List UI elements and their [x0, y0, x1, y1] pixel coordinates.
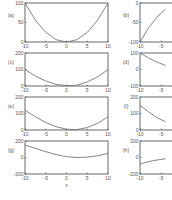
x-tick-label: 0	[65, 43, 68, 49]
y-tick-label: 0	[21, 39, 24, 45]
y-tick-label: 200	[15, 50, 24, 56]
y-tick-label: 200	[130, 94, 139, 100]
y-tick-label: 100	[130, 50, 139, 56]
axes-box	[140, 3, 172, 42]
y-tick-label: 0	[136, 127, 139, 133]
x-axis-label: x	[65, 182, 68, 188]
panel-g: -10-50510-2000200(g)x	[8, 138, 111, 188]
panel-e: -10-505100100200(e)	[8, 94, 111, 137]
x-tick-label: -5	[44, 175, 49, 181]
y-tick-label: 0	[21, 127, 24, 133]
x-tick-label: -5	[159, 87, 164, 93]
axes-box	[140, 97, 172, 130]
panel-f: -10-50100200(f)	[124, 94, 172, 137]
x-tick-label: 5	[86, 43, 89, 49]
x-tick-label: 5	[86, 87, 89, 93]
x-tick-label: 0	[65, 175, 68, 181]
y-tick-label: -50	[131, 19, 138, 25]
y-tick-label: -100	[128, 39, 138, 45]
x-tick-label: 10	[105, 87, 111, 93]
y-tick-label: 200	[130, 138, 139, 144]
panel-label: (b)	[123, 12, 129, 18]
x-tick-label: 10	[105, 131, 111, 137]
y-tick-label: 0	[21, 83, 24, 89]
y-tick-label: 0	[136, 154, 139, 160]
panel-label: (h)	[123, 147, 129, 153]
y-tick-label: 100	[15, 110, 24, 116]
axes-box	[25, 53, 108, 86]
y-tick-label: 200	[15, 138, 24, 144]
x-tick-label: 5	[86, 131, 89, 137]
panel-label: (f)	[124, 103, 129, 109]
x-tick-label: -5	[44, 87, 49, 93]
axes-box	[140, 53, 172, 86]
panel-d: -10-5-1000100(d)	[123, 50, 172, 93]
data-line	[25, 110, 108, 130]
x-tick-label: 0	[65, 131, 68, 137]
y-tick-label: -100	[128, 83, 138, 89]
x-tick-label: -5	[159, 131, 164, 137]
y-tick-label: 100	[130, 110, 139, 116]
panel-a: -10-50510050100(a)	[8, 0, 111, 49]
x-tick-label: -5	[44, 131, 49, 137]
panel-label: (a)	[8, 12, 14, 18]
x-tick-label: -5	[159, 175, 164, 181]
data-line	[140, 105, 166, 122]
panel-c: -10-505100100200(c)	[8, 50, 111, 93]
x-tick-label: -5	[44, 43, 49, 49]
y-tick-label: -200	[128, 171, 138, 177]
y-tick-label: 0	[136, 66, 139, 72]
x-tick-label: 10	[105, 175, 111, 181]
y-tick-label: 50	[18, 19, 24, 25]
y-tick-label: -200	[13, 171, 23, 177]
y-tick-label: 0	[136, 0, 139, 6]
data-line	[140, 9, 166, 42]
data-line	[140, 159, 166, 164]
axes-box	[25, 141, 108, 174]
panel-label: (e)	[8, 103, 14, 109]
panel-label: (g)	[8, 147, 14, 153]
data-line	[140, 53, 166, 65]
y-tick-label: 0	[21, 154, 24, 160]
panel-b: -10-5-100-500(b)	[123, 0, 172, 49]
axes-box	[140, 141, 172, 174]
panel-h: -10-5-2000200(h)	[123, 138, 172, 181]
data-line	[25, 70, 108, 86]
x-tick-label: 0	[65, 87, 68, 93]
axes-box	[25, 97, 108, 130]
data-line	[25, 145, 108, 157]
y-tick-label: 200	[15, 94, 24, 100]
x-tick-label: 10	[105, 43, 111, 49]
panel-label: (c)	[8, 59, 14, 65]
panel-label: (d)	[123, 59, 129, 65]
x-tick-label: 5	[86, 175, 89, 181]
figure: -10-50510050100(a)-10-5-100-500(b)-10-50…	[0, 0, 172, 200]
data-line	[25, 3, 108, 42]
y-tick-label: 100	[15, 0, 24, 6]
x-tick-label: -5	[159, 43, 164, 49]
y-tick-label: 100	[15, 66, 24, 72]
